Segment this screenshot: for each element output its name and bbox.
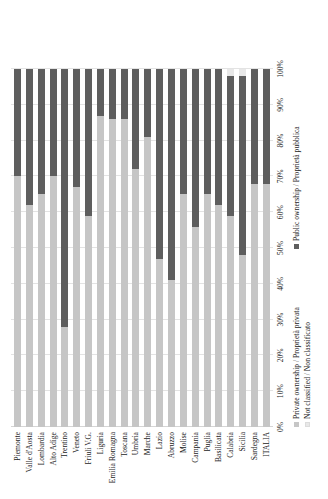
bar-segment [156,69,163,259]
bar-row [215,69,222,427]
bar-segment [204,194,211,427]
bar-row [204,69,211,427]
bar-segment [215,205,222,427]
bar-segment [26,205,33,427]
category-axis: PiemonteValle d'AostaLombardiaAlto Adige… [11,429,273,499]
plot-area [11,69,273,427]
bar-row [73,69,80,427]
bar-segment [215,69,222,205]
bar-row [239,69,246,427]
category-label: Campania [192,429,199,499]
category-label: Umbria [132,429,139,499]
category-label: Abruzzo [168,429,175,499]
bar-row [14,69,21,427]
bar-segment [50,69,57,176]
bar-segment [109,69,116,119]
bar-segment [132,169,139,427]
bar-segment [50,176,57,427]
bar-segment [144,69,151,137]
bar-segment [180,69,187,194]
legend-item-not-classified[interactable]: Not classified / Non classificato [303,322,312,427]
category-label: Alto Adige [50,429,57,499]
axis-tick-label: 90% [275,98,287,112]
bar-row [263,69,270,427]
bar-segment [227,76,234,216]
bar-segment [239,76,246,255]
axis-tick-label: 100% [275,60,287,78]
bar-segment [14,69,21,176]
bar-segment [14,176,21,427]
category-label: Emilia Romagna [109,429,116,499]
category-label: Calabria [227,429,234,499]
axis-tick-label: 30% [275,313,287,327]
axis-tick-label: 10% [275,384,287,398]
category-label: Molise [180,429,187,499]
bar-row [97,69,104,427]
category-label: ITALIA [263,429,270,499]
bar-segment [180,194,187,427]
axis-tick-label: 80% [275,134,287,148]
bar-segment [263,184,270,427]
bar-segment [192,227,199,427]
bar-row [38,69,45,427]
category-label: Liguria [97,429,104,499]
axis-tick-label: 60% [275,205,287,219]
bar-segment [192,69,199,227]
category-label: Toscana [121,429,128,499]
legend-item-private[interactable]: Private ownership / Proprietà privata [292,307,301,427]
category-label: Piemonte [14,429,21,499]
axis-tick-label: 40% [275,277,287,291]
bar-row [132,69,139,427]
legend-swatch-not-classified-icon [305,422,310,427]
bar-segment [227,216,234,427]
bar-segment [239,255,246,427]
bar-segment [144,137,151,427]
bar-row [144,69,151,427]
category-label: Valle d'Aosta [26,429,33,499]
legend-label-public: Public ownership / Proprietà pubblica [292,126,301,241]
legend-item-public[interactable]: Public ownership / Proprietà pubblica [292,126,301,249]
axis-tick-label: 0% [275,422,287,432]
bar-row [227,69,234,427]
category-label: Lazio [156,429,163,499]
bar-row [85,69,92,427]
legend-swatch-public-icon [294,244,299,249]
bar-segment [85,216,92,427]
bar-series-group [11,69,273,427]
bar-segment [61,69,68,327]
category-label: Friuli V.G. [85,429,92,499]
bar-segment [73,69,80,187]
bar-segment [239,69,246,76]
bar-segment [38,194,45,427]
category-label: Basilicata [215,429,222,499]
bar-segment [73,187,80,427]
bar-row [180,69,187,427]
bar-segment [121,119,128,427]
bar-row [26,69,33,427]
bar-row [109,69,116,427]
bar-segment [251,184,258,427]
bar-segment [132,69,139,169]
legend-swatch-private-icon [294,422,299,427]
bar-segment [227,69,234,76]
category-label: Marche [144,429,151,499]
category-label: Sardegna [251,429,258,499]
bar-segment [61,327,68,427]
bar-row [251,69,258,427]
category-label: Lombardia [38,429,45,499]
category-label: Veneto [73,429,80,499]
bar-segment [121,69,128,119]
axis-tick-label: 50% [275,241,287,255]
chart-legend: Private ownership / Proprietà privata Pu… [292,27,322,427]
category-label: Sicilia [239,429,246,499]
chart-figure: PiemonteValle d'AostaLombardiaAlto Adige… [0,0,328,499]
bar-segment [38,69,45,194]
category-label: Puglia [204,429,211,499]
legend-label-not-classified: Not classified / Non classificato [303,322,312,419]
bar-segment [26,69,33,205]
axis-tick-label: 70% [275,169,287,183]
bar-segment [168,69,175,280]
legend-label-private: Private ownership / Proprietà privata [292,307,301,419]
bar-segment [168,280,175,427]
bar-segment [251,69,258,184]
